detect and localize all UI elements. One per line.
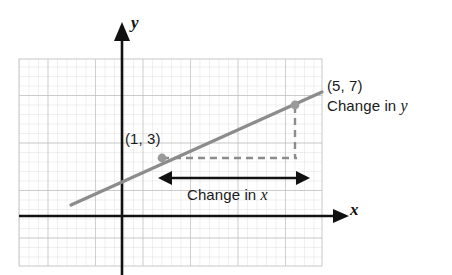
data-point-5-7 bbox=[291, 101, 300, 110]
label-change-in-x: Change in x bbox=[187, 186, 268, 203]
change-in-x-variable: x bbox=[261, 186, 268, 203]
change-in-y-variable: y bbox=[401, 97, 408, 114]
data-point-1-3 bbox=[158, 154, 167, 163]
label-point-5-7: (5, 7) bbox=[327, 77, 363, 94]
change-in-y-text: Change in bbox=[327, 97, 401, 114]
axis-label-y: y bbox=[131, 14, 139, 31]
change-in-x-text: Change in bbox=[187, 186, 261, 203]
label-change-in-y: Change in y bbox=[327, 97, 408, 114]
coordinate-plane-graphic bbox=[0, 0, 452, 275]
graph-paper-grid bbox=[19, 59, 322, 266]
figure-canvas: (1, 3) (5, 7) Change in y Change in x y … bbox=[0, 0, 452, 275]
axis-label-x: x bbox=[350, 201, 359, 218]
label-point-1-3: (1, 3) bbox=[125, 130, 161, 147]
